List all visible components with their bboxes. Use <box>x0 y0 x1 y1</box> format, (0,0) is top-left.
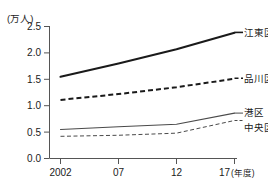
legend-label-chuo: 中央区 <box>244 122 268 133</box>
y-tick-label-1: 0.5 <box>27 127 41 138</box>
x-tick-label-1: 07 <box>113 167 125 178</box>
y-tick-label-0: 0.0 <box>27 153 41 164</box>
chart-canvas: (万人) 0.0 0.5 1.0 1.5 2.0 2.5 2002 07 12 … <box>0 0 268 181</box>
y-tick-label-4: 2.0 <box>27 47 41 58</box>
x-tick-label-0: 2002 <box>49 167 72 178</box>
line-chart: (万人) 0.0 0.5 1.0 1.5 2.0 2.5 2002 07 12 … <box>0 0 268 181</box>
legend-label-koto: 江東区 <box>244 27 268 38</box>
y-tick-label-3: 1.5 <box>27 74 41 85</box>
x-tick-label-3: 17 <box>219 167 231 178</box>
legend-label-shinagawa: 品川区 <box>244 73 268 84</box>
x-axis-unit-label: (年度) <box>231 168 255 178</box>
y-tick-label-5: 2.5 <box>27 21 41 32</box>
legend-label-minato: 港区 <box>244 107 264 118</box>
x-tick-label-2: 12 <box>171 167 183 178</box>
y-tick-label-2: 1.0 <box>27 100 41 111</box>
